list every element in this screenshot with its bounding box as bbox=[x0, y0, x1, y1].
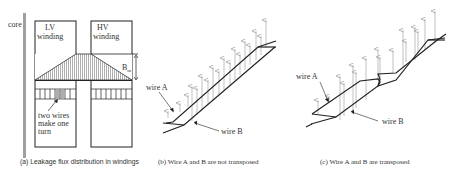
caption-c: (c) Wire A and B are transposed bbox=[320, 158, 410, 166]
panel-b-not-transposed: wire A wire B (b) Wire A and B are not t… bbox=[146, 20, 276, 166]
wire-a-label: wire A bbox=[296, 72, 318, 81]
caption-a: (a) Leakage flux distribution in winding… bbox=[20, 158, 140, 166]
lv-label: LV bbox=[45, 23, 55, 32]
panel-c-transposed: wire A wire B (c) Wire A and B are trans… bbox=[296, 11, 446, 166]
flux-arrows bbox=[318, 11, 435, 120]
panel-a-winding-diagram: core LV winding HV winding Bm bbox=[8, 13, 140, 166]
wire-b-label: wire B bbox=[221, 127, 243, 136]
hv-label: HV bbox=[97, 23, 109, 32]
figure: core LV winding HV winding Bm bbox=[0, 0, 460, 177]
caption-b: (b) Wire A and B are not transposed bbox=[158, 158, 259, 166]
lv-winding-label: winding bbox=[37, 32, 63, 41]
wire-b-label: wire B bbox=[382, 117, 404, 126]
wire-a-path bbox=[166, 41, 276, 123]
hv-winding-label: winding bbox=[93, 32, 119, 41]
note-line-3: turn bbox=[38, 127, 51, 136]
wire-a-label: wire A bbox=[146, 83, 168, 92]
hv-conductor-row bbox=[91, 89, 132, 99]
flux-arrows bbox=[168, 20, 266, 121]
core-bar bbox=[23, 13, 26, 158]
highlighted-turn bbox=[56, 90, 65, 99]
core-label: core bbox=[8, 20, 22, 29]
